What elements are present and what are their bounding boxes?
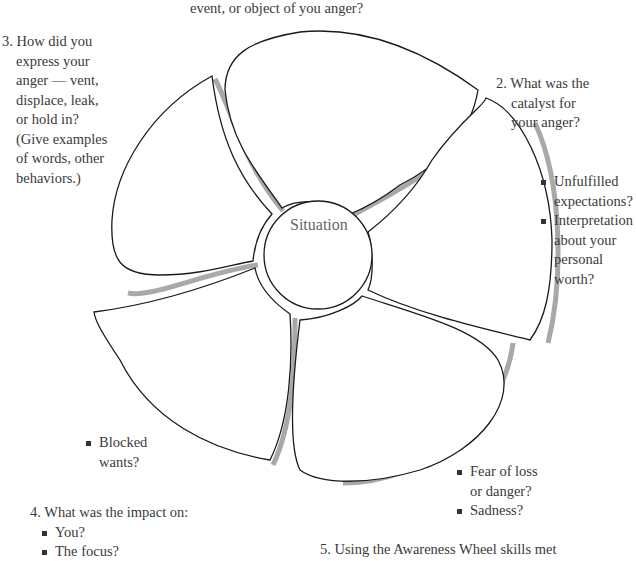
lower-left-bullets: Blocked wants?: [86, 433, 147, 472]
top-caption: event, or object of you anger?: [190, 0, 363, 19]
q3-line: express your: [2, 52, 107, 72]
q3-line: displace, leak,: [2, 91, 107, 111]
q2-line: 2. What was the: [496, 74, 589, 94]
bullet-square-icon: [42, 550, 47, 555]
bullet-item: Sadness?: [457, 501, 538, 521]
bullet-item: Unfulfilled expectations?: [541, 172, 633, 211]
q3-line: behaviors.): [2, 169, 107, 189]
bullet-square-icon: [42, 531, 47, 536]
q3-line: or hold in?: [2, 110, 107, 130]
bullet-item: You?: [42, 523, 188, 543]
lower-right-bullets: Fear of loss or danger? Sadness?: [457, 462, 538, 521]
bullet-square-icon: [457, 470, 462, 475]
bullet-square-icon: [86, 441, 91, 446]
bullet-item: Interpretation about your personal worth…: [541, 211, 633, 289]
q3-line: 3. How did you: [2, 32, 107, 52]
q2-line: catalyst for: [496, 94, 589, 114]
question-4-block: 4. What was the impact on: You? The focu…: [30, 503, 188, 561]
situation-label: Situation: [290, 216, 348, 234]
q3-line: anger — vent,: [2, 71, 107, 91]
bullet-square-icon: [457, 509, 462, 514]
bullet-item: The focus?: [42, 542, 188, 561]
question-5-title: 5. Using the Awareness Wheel skills met: [320, 540, 556, 560]
question-2-block: 2. What was the catalyst for your anger?: [496, 74, 589, 133]
q2-line: your anger?: [496, 113, 589, 133]
q3-line: of words, other: [2, 149, 107, 169]
q3-line: (Give examples: [2, 130, 107, 150]
petal-lower-left: [94, 268, 291, 460]
bullet-item: Fear of loss or danger?: [457, 462, 538, 501]
bullet-square-icon: [541, 219, 546, 224]
q4-title: 4. What was the impact on:: [30, 503, 188, 523]
bullet-item: Blocked wants?: [86, 433, 147, 472]
question-3-block: 3. How did you express your anger — vent…: [2, 32, 107, 188]
question-2-bullets: Unfulfilled expectations? Interpretation…: [541, 172, 633, 289]
bullet-square-icon: [541, 180, 546, 185]
